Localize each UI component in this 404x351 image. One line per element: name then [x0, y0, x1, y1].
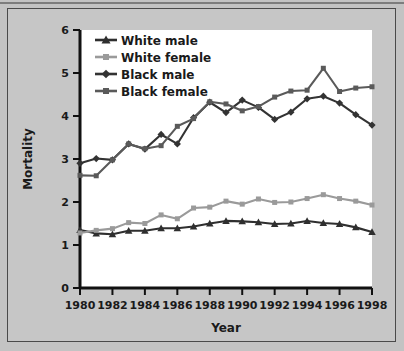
data-point: [142, 146, 147, 151]
data-point: [78, 173, 83, 178]
x-axis-tick-label: 1980: [65, 299, 96, 312]
data-point: [288, 200, 293, 205]
data-point: [321, 66, 326, 71]
data-point: [175, 216, 180, 221]
legend-marker: [103, 88, 109, 94]
data-point: [353, 86, 358, 91]
data-point: [224, 199, 229, 204]
x-axis-tick-label: 1986: [162, 299, 193, 312]
data-point: [159, 212, 164, 217]
legend-marker: [103, 54, 109, 60]
y-axis-tick-label: 3: [61, 153, 69, 166]
data-point: [191, 116, 196, 121]
x-axis-tick-label: 1994: [292, 299, 323, 312]
figure-container: White maleWhite femaleBlack maleBlack fe…: [0, 0, 404, 351]
data-point: [272, 200, 277, 205]
legend-label: White male: [121, 34, 198, 48]
y-axis-tick-label: 6: [61, 24, 69, 37]
data-point: [256, 196, 261, 201]
x-axis-tick-label: 1982: [97, 299, 128, 312]
data-point: [370, 203, 375, 208]
y-axis-tick-label: 4: [61, 110, 69, 123]
x-axis-tick-label: 1984: [130, 299, 161, 312]
data-point: [240, 108, 245, 113]
data-point: [272, 95, 277, 100]
x-axis-tick-label: 1998: [357, 299, 388, 312]
data-point: [126, 220, 131, 225]
y-axis-tick-label: 2: [61, 196, 69, 209]
legend-label: White female: [121, 51, 211, 65]
data-point: [240, 202, 245, 207]
data-point: [94, 228, 99, 233]
x-axis-tick-label: 1988: [194, 299, 225, 312]
data-point: [305, 88, 310, 93]
data-point: [94, 173, 99, 178]
data-point: [321, 192, 326, 197]
legend-label: Black female: [121, 85, 208, 99]
data-point: [353, 199, 358, 204]
legend-label: Black male: [121, 68, 194, 82]
x-axis-tick-label: 1996: [324, 299, 355, 312]
data-point: [126, 141, 131, 146]
data-point: [110, 226, 115, 231]
data-point: [142, 221, 147, 226]
y-axis-tick-label: 0: [61, 282, 69, 295]
data-point: [175, 124, 180, 129]
data-point: [337, 89, 342, 94]
data-point: [256, 104, 261, 109]
x-axis-tick-label: 1990: [227, 299, 258, 312]
data-point: [207, 205, 212, 210]
data-point: [78, 230, 83, 235]
data-point: [191, 206, 196, 211]
data-point: [159, 143, 164, 148]
data-point: [288, 89, 293, 94]
data-point: [370, 84, 375, 89]
x-axis-tick-label: 1992: [259, 299, 290, 312]
mortality-line-chart: White maleWhite femaleBlack maleBlack fe…: [0, 0, 404, 351]
data-point: [224, 101, 229, 106]
data-point: [337, 196, 342, 201]
data-point: [305, 196, 310, 201]
y-axis-title: Mortality: [21, 128, 35, 190]
data-point: [207, 99, 212, 104]
data-point: [110, 157, 115, 162]
x-axis-title: Year: [210, 321, 241, 335]
y-axis-tick-label: 5: [61, 67, 69, 80]
y-axis-tick-label: 1: [61, 239, 69, 252]
